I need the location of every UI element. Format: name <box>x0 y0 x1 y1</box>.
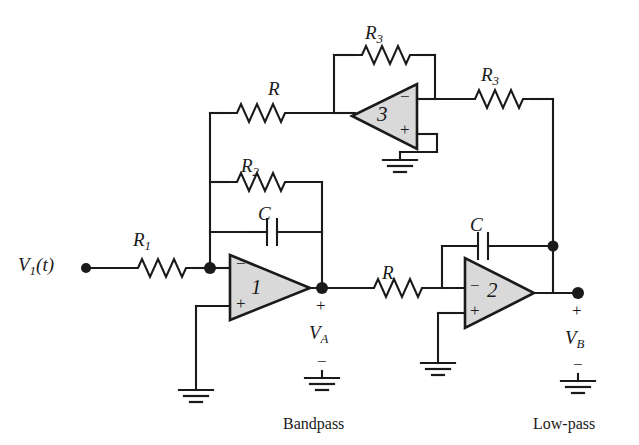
node-dot-inverting-input <box>204 262 216 274</box>
node-dot-va <box>316 282 328 294</box>
label-r-top: R <box>268 78 280 100</box>
vb-label: VB <box>565 327 585 352</box>
label-c1: C <box>258 203 271 225</box>
label-r-mid: R <box>382 262 394 284</box>
gnd-opamp3 <box>383 160 417 172</box>
va-minus-sign: − <box>317 352 327 372</box>
opamp1-number: 1 <box>251 275 262 300</box>
opamp3-minus-sign: − <box>400 87 410 107</box>
caption-bandpass: Bandpass <box>283 415 344 433</box>
va-label: VA <box>309 322 329 347</box>
opamp2-minus-sign: − <box>470 276 480 296</box>
source-label: V1(t) <box>18 254 54 279</box>
label-r1: R1 <box>133 229 151 254</box>
wire-opamp1-noninverting <box>196 306 230 390</box>
resistor-r-mid <box>366 279 430 297</box>
node-dot-c2-tap <box>548 241 559 252</box>
resistor-r2 <box>229 173 293 191</box>
caption-lowpass: Low-pass <box>533 415 595 433</box>
opamp1-minus-sign: − <box>236 254 246 274</box>
label-r3-feedback: R3 <box>365 22 383 47</box>
circuit-schematic <box>0 0 639 445</box>
wire-opamp3-inverting <box>417 55 435 99</box>
vb-minus-sign: − <box>573 355 583 375</box>
label-c2: C <box>470 214 483 236</box>
input-terminal-dot <box>81 263 91 273</box>
label-r2: R2 <box>241 155 259 180</box>
wire-opamp2-noninverting <box>438 313 465 363</box>
gnd-vb <box>561 381 595 393</box>
gnd-opamp1 <box>179 390 213 402</box>
resistor-r1 <box>130 259 194 277</box>
node-dot-vb <box>572 287 584 299</box>
resistor-r3-output <box>467 90 531 108</box>
vb-plus-sign: + <box>572 301 582 321</box>
wire-inverting-bus-opamp1 <box>210 113 248 268</box>
figure-canvas: V1(t) R1 R R2 C R R3 R3 C 1 2 3 − + − + … <box>0 0 639 445</box>
gnd-opamp2 <box>421 363 455 375</box>
wire-r3-feedback-left <box>334 55 355 113</box>
gnd-va <box>305 378 339 390</box>
opamp2-number: 2 <box>487 278 498 303</box>
opamp1-plus-sign: + <box>236 294 246 314</box>
va-plus-sign: + <box>316 296 326 316</box>
label-r3-output: R3 <box>481 64 499 89</box>
resistor-r-top <box>229 104 293 122</box>
opamp3-plus-sign: + <box>400 120 410 140</box>
opamp3-number: 3 <box>377 102 388 127</box>
resistor-r3-feedback <box>354 46 418 64</box>
opamp2-plus-sign: + <box>470 301 480 321</box>
